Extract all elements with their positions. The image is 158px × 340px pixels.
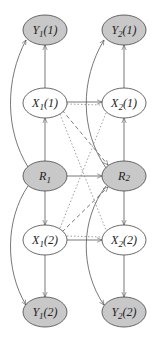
node-y2_2: Y2(2) [102, 297, 146, 327]
svg-text:Y2(2): Y2(2) [111, 305, 136, 321]
node-x2_1: X2(1) [102, 88, 146, 118]
svg-text:Y1(2): Y1(2) [32, 305, 57, 321]
svg-text:X2(2): X2(2) [110, 233, 137, 249]
node-y1_1: Y1(1) [23, 15, 67, 45]
cross-edges [60, 110, 108, 232]
edge-dotted-x1_2-x2_1 [60, 113, 106, 228]
svg-text:Y2(1): Y2(1) [111, 23, 136, 39]
node-x1_1: X1(1) [23, 88, 67, 118]
node-r1: R1 [23, 161, 67, 191]
svg-text:X1(2): X1(2) [31, 233, 58, 249]
node-r2: R2 [102, 161, 146, 191]
svg-text:X2(1): X2(1) [110, 96, 137, 112]
edge-dotted-x1_1-x2_1 [67, 104, 102, 105]
svg-text:Y1(1): Y1(1) [32, 23, 57, 39]
svg-text:X1(1): X1(1) [31, 96, 58, 112]
node-x1_2: X1(2) [23, 225, 67, 255]
node-y2_1: Y2(1) [102, 15, 146, 45]
node-y1_2: Y1(2) [23, 297, 67, 327]
edge-dotted-x1_1-x2_2 [60, 114, 106, 230]
bayesian-network-diagram: Y1(1) Y2(1) X1(1) X2(1) R1 R2 X1(2) X2(2… [0, 0, 158, 340]
edge-dotted-x1_2-x2_2 [67, 236, 102, 237]
node-x2_2: X2(2) [102, 225, 146, 255]
